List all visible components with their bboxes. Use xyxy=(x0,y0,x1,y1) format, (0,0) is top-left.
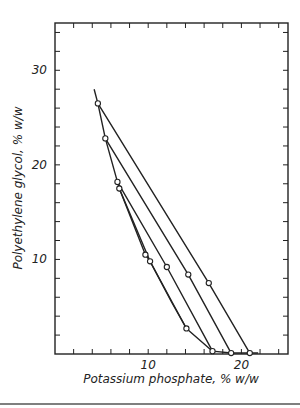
data-point-marker xyxy=(164,264,169,269)
data-point-marker xyxy=(206,280,211,285)
tie-line xyxy=(119,189,186,329)
y-tick-label: 10 xyxy=(32,252,48,266)
tie-line xyxy=(105,138,231,353)
data-point-marker xyxy=(186,272,191,277)
plot-frame xyxy=(55,23,288,354)
x-tick-label: 20 xyxy=(234,358,250,372)
axis-ticks xyxy=(55,23,288,354)
binodal-curve xyxy=(94,89,258,353)
data-point-marker xyxy=(210,349,215,354)
x-tick-label: 10 xyxy=(141,358,157,372)
data-point-marker xyxy=(184,326,189,331)
data-point-marker xyxy=(147,259,152,264)
data-point-marker xyxy=(229,350,234,355)
y-axis-label: Polyethylene glycol, % w/w xyxy=(11,106,25,269)
data-point-marker xyxy=(143,252,148,257)
data-point-marker xyxy=(115,179,120,184)
data-point-marker xyxy=(103,136,108,141)
data-point-marker xyxy=(95,101,100,106)
data-curves xyxy=(94,89,258,353)
y-tick-label: 30 xyxy=(32,63,48,77)
y-tick-label: 20 xyxy=(32,158,48,172)
phase-diagram-chart: 1020102030 Potassium phosphate, % w/w Po… xyxy=(0,0,300,408)
x-axis-label: Potassium phosphate, % w/w xyxy=(83,372,259,386)
data-point-marker xyxy=(117,186,122,191)
tie-line xyxy=(98,103,250,353)
data-point-marker xyxy=(247,350,252,355)
